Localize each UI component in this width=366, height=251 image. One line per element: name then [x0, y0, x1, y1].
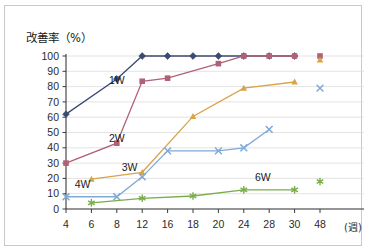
- data-point-square: [292, 53, 298, 59]
- data-point-triangle: [291, 79, 298, 85]
- x-tick-label: 8: [114, 218, 120, 230]
- data-point-diamond: [190, 53, 197, 60]
- series-label-1W: 1W: [109, 74, 125, 86]
- series-labels: 1W2W3W4W6W: [75, 74, 271, 190]
- x-tick-label: 4: [63, 218, 69, 230]
- x-tick-label: 6: [88, 218, 94, 230]
- y-tick-label: 80: [47, 80, 59, 92]
- y-axis-title: 改善率（%）: [26, 31, 92, 45]
- series-label-2W: 2W: [109, 132, 125, 144]
- series-line-2W: [66, 56, 295, 163]
- data-point-square: [266, 53, 272, 59]
- x-tick-label: 18: [187, 218, 199, 230]
- y-tick-label: 20: [47, 172, 59, 184]
- x-axis-unit-label: (週): [344, 222, 362, 233]
- data-point-square: [63, 160, 69, 166]
- y-tick-label: 60: [47, 111, 59, 123]
- y-tick-label: 0: [53, 203, 59, 215]
- data-point-diamond: [164, 53, 171, 60]
- y-tick-label: 90: [47, 65, 59, 77]
- line-chart: 0102030405060708090100 46812161820242830…: [0, 0, 366, 251]
- data-point-diamond: [215, 53, 222, 60]
- series-label-6W: 6W: [255, 171, 271, 183]
- data-point-star: [317, 178, 324, 186]
- series-line-1W: [66, 56, 295, 114]
- x-tick-label: 12: [136, 218, 148, 230]
- data-series-layer: [63, 53, 324, 207]
- x-tick-label: 24: [238, 218, 250, 230]
- series-1W: [63, 53, 298, 118]
- data-point-square: [241, 53, 247, 59]
- y-tick-label: 70: [47, 96, 59, 108]
- axes: [63, 54, 365, 213]
- data-point-x: [317, 85, 324, 92]
- data-point-triangle: [190, 113, 197, 119]
- x-tick-label: 16: [162, 218, 174, 230]
- figure-frame: 0102030405060708090100 46812161820242830…: [0, 0, 366, 251]
- x-tick-label: 28: [263, 218, 275, 230]
- y-tick-label: 40: [47, 141, 59, 153]
- data-point-x: [266, 126, 273, 133]
- x-axis-tick-labels: 4681216182024283048: [63, 218, 326, 230]
- data-point-square: [139, 78, 145, 84]
- y-axis-tick-labels: 0102030405060708090100: [41, 50, 59, 215]
- series-2W: [63, 53, 323, 166]
- y-tick-label: 10: [47, 187, 59, 199]
- data-point-square: [216, 61, 222, 67]
- y-tick-label: 50: [47, 126, 59, 138]
- y-tick-label: 30: [47, 157, 59, 169]
- series-label-3W: 3W: [122, 161, 138, 173]
- data-point-square: [165, 75, 171, 81]
- x-tick-label: 20: [213, 218, 225, 230]
- series-label-4W: 4W: [75, 178, 91, 190]
- y-tick-label: 100: [41, 50, 59, 62]
- x-tick-label: 48: [314, 218, 326, 230]
- x-tick-label: 30: [289, 218, 301, 230]
